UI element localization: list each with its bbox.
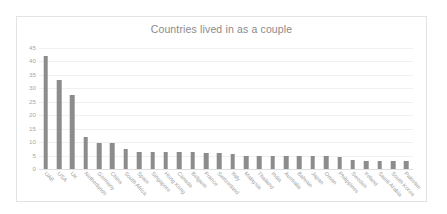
bar[interactable] (270, 156, 275, 169)
x-label-slot: Saudi Arabia (373, 170, 386, 214)
y-axis-tick-label: 45 (29, 45, 36, 51)
x-label-slot: Japan (306, 170, 319, 214)
x-axis: UAEUSAUKNetherlandsGermanyChinaSouth Afr… (39, 170, 413, 214)
x-label-slot: Australia (279, 170, 292, 214)
x-label-slot: Italy (226, 170, 239, 214)
x-axis-tick-label: UK (69, 171, 78, 181)
bar-slot (92, 48, 105, 169)
bar[interactable] (57, 80, 62, 169)
x-label-slot: Netherlands (79, 170, 92, 214)
x-label-slot: Switzerland (213, 170, 226, 214)
bar[interactable] (351, 160, 356, 169)
x-label-slot: India (266, 170, 279, 214)
x-label-slot: Thailand (253, 170, 266, 214)
bar-slot (106, 48, 119, 169)
bar-series (39, 48, 413, 169)
x-label-slot: South Africa (119, 170, 132, 214)
y-axis-tick-label: 10 (29, 139, 36, 145)
y-axis-tick-label: 30 (29, 85, 36, 91)
plot-area (39, 48, 413, 169)
x-label-slot: Philippines (333, 170, 346, 214)
x-label-slot: Oman (320, 170, 333, 214)
bar-slot (52, 48, 65, 169)
x-label-slot: Pakistan (400, 170, 413, 214)
chart-frame: Countries lived in as a couple 051015202… (16, 16, 427, 202)
x-label-slot: Ireland (360, 170, 373, 214)
bar[interactable] (70, 95, 75, 169)
y-axis: 051015202530354045 (17, 48, 37, 169)
bar-slot (133, 48, 146, 169)
bar[interactable] (284, 156, 289, 169)
bar[interactable] (404, 161, 409, 169)
bar[interactable] (244, 156, 249, 169)
x-label-slot: Malaysia (239, 170, 252, 214)
x-label-slot: Canada (173, 170, 186, 214)
bar-slot (239, 48, 252, 169)
bar[interactable] (230, 154, 235, 169)
bar-slot (199, 48, 212, 169)
bar[interactable] (43, 56, 48, 169)
bar-slot (186, 48, 199, 169)
bar[interactable] (311, 156, 316, 169)
bar-slot (39, 48, 52, 169)
bar[interactable] (364, 161, 369, 169)
bar[interactable] (204, 153, 209, 169)
y-axis-tick-label: 0 (33, 166, 36, 172)
x-label-slot: South Korea (386, 170, 399, 214)
bar-slot (119, 48, 132, 169)
x-label-slot: France (199, 170, 212, 214)
bar-slot (279, 48, 292, 169)
y-axis-tick-label: 15 (29, 126, 36, 132)
bar[interactable] (97, 143, 102, 169)
bar[interactable] (150, 152, 155, 169)
y-axis-tick-label: 35 (29, 72, 36, 78)
x-label-slot: Bahrain (293, 170, 306, 214)
x-label-slot: UAE (39, 170, 52, 214)
bar[interactable] (137, 152, 142, 169)
bar-slot (213, 48, 226, 169)
bar-slot (266, 48, 279, 169)
y-axis-tick-label: 20 (29, 112, 36, 118)
x-label-slot: UK (66, 170, 79, 214)
bar-slot (373, 48, 386, 169)
bar-slot (360, 48, 373, 169)
x-label-slot: Sweden (346, 170, 359, 214)
bar-slot (66, 48, 79, 169)
bar[interactable] (337, 157, 342, 169)
bar-slot (293, 48, 306, 169)
x-label-slot: China (106, 170, 119, 214)
x-label-slot: USA (52, 170, 65, 214)
bar-slot (226, 48, 239, 169)
bar-slot (253, 48, 266, 169)
chart-title: Countries lived in as a couple (17, 23, 426, 35)
bar-slot (386, 48, 399, 169)
bar[interactable] (124, 149, 129, 169)
x-axis-tick-label: Pakistan (403, 171, 422, 191)
y-axis-tick-label: 5 (33, 152, 36, 158)
bar[interactable] (110, 143, 115, 169)
bar-slot (346, 48, 359, 169)
bar-slot (173, 48, 186, 169)
x-label-slot: Belgium (186, 170, 199, 214)
y-axis-tick-label: 40 (29, 58, 36, 64)
bar[interactable] (190, 152, 195, 169)
bar-slot (159, 48, 172, 169)
bar[interactable] (324, 156, 329, 169)
x-label-slot: Spain (133, 170, 146, 214)
y-axis-tick-label: 25 (29, 99, 36, 105)
bar[interactable] (377, 161, 382, 169)
bar[interactable] (257, 156, 262, 169)
x-label-slot: Hong Kong (159, 170, 172, 214)
bar-slot (306, 48, 319, 169)
bar[interactable] (177, 152, 182, 169)
x-label-slot: Germany (92, 170, 105, 214)
bar-slot (333, 48, 346, 169)
bar[interactable] (217, 153, 222, 169)
bar[interactable] (297, 156, 302, 169)
bar[interactable] (164, 152, 169, 169)
bar[interactable] (391, 161, 396, 169)
bar-slot (320, 48, 333, 169)
bar[interactable] (83, 137, 88, 169)
bar-slot (79, 48, 92, 169)
bar-slot (400, 48, 413, 169)
